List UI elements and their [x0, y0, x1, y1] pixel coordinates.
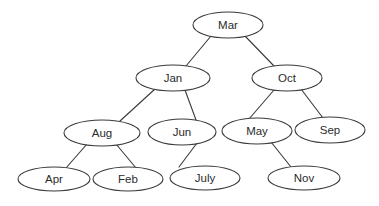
node-ellipse-apr[interactable] — [18, 167, 90, 191]
edge-aug-to-apr — [66, 144, 87, 168]
tree-node-mar[interactable]: Mar — [193, 12, 263, 38]
tree-node-feb[interactable]: Feb — [93, 167, 163, 191]
node-ellipse-jun[interactable] — [148, 119, 216, 145]
edge-jun-to-july — [179, 143, 197, 167]
tree-diagram-svg: MarJanOctAugJunMaySepAprFebJulyNov — [0, 0, 379, 206]
tree-node-jan[interactable]: Jan — [136, 65, 210, 91]
edge-mar-to-oct — [245, 36, 274, 66]
node-ellipse-jan[interactable] — [136, 65, 210, 91]
edge-oct-to-sep — [301, 89, 323, 118]
tree-node-jun[interactable]: Jun — [148, 119, 216, 145]
edge-may-to-nov — [271, 142, 291, 167]
tree-node-july[interactable]: July — [170, 166, 240, 190]
edge-mar-to-jan — [186, 36, 211, 66]
tree-node-sep[interactable]: Sep — [295, 117, 365, 143]
tree-node-apr[interactable]: Apr — [18, 167, 90, 191]
tree-diagram-canvas: MarJanOctAugJunMaySepAprFebJulyNov — [0, 0, 379, 206]
node-ellipse-may[interactable] — [222, 118, 292, 144]
tree-node-may[interactable]: May — [222, 118, 292, 144]
node-ellipse-july[interactable] — [170, 166, 240, 190]
node-ellipse-nov[interactable] — [268, 166, 340, 190]
node-ellipse-feb[interactable] — [93, 167, 163, 191]
edges-group — [66, 36, 323, 168]
edge-aug-to-feb — [116, 144, 136, 168]
node-ellipse-oct[interactable] — [252, 65, 322, 91]
tree-node-nov[interactable]: Nov — [268, 166, 340, 190]
node-ellipse-sep[interactable] — [295, 117, 365, 143]
tree-node-oct[interactable]: Oct — [252, 65, 322, 91]
edge-jan-to-aug — [120, 89, 155, 121]
node-ellipse-mar[interactable] — [193, 12, 263, 38]
node-ellipse-aug[interactable] — [64, 120, 140, 146]
tree-node-aug[interactable]: Aug — [64, 120, 140, 146]
edge-jan-to-jun — [185, 90, 196, 120]
edge-oct-to-may — [249, 90, 274, 119]
